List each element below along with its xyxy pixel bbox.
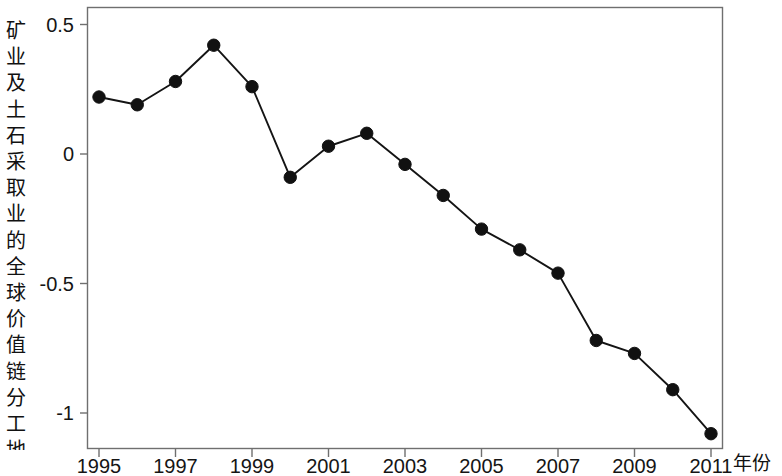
y-tick-label: -0.5 [40,273,74,295]
data-point-markers: 1995: 0.221996: 0.191997: 0.281998: 0.42… [93,39,717,440]
chart-figure: 矿业及土石采取业的全球价值链分工地位 年份 0.50-0.5-1 1995199… [0,0,782,476]
data-point-marker: 1995: 0.22 [93,91,105,103]
data-point-marker: 1998: 0.42 [208,39,220,51]
data-point-marker: 2008: -0.72 [590,334,602,346]
x-axis-ticks: 199519971999200120032005200720092011 [77,448,733,476]
x-tick-label: 2005 [459,455,504,476]
data-point-marker: 1996: 0.19 [131,99,143,111]
data-point-marker: 2000: -0.09 [284,171,296,183]
data-point-marker: 2006: -0.37 [514,244,526,256]
x-tick-label: 2011 [689,455,732,476]
line-chart-plot: 0.50-0.5-1 19951997199920012003200520072… [0,0,782,476]
data-point-marker: 2002: 0.08 [361,127,373,139]
data-point-marker: 2010: -0.91 [667,383,679,395]
x-tick-label: 2007 [536,455,581,476]
data-point-marker: 2011: -1.08 [705,428,717,440]
y-tick-label: -1 [56,402,74,424]
y-axis-ticks: 0.50-0.5-1 [40,14,88,425]
x-tick-label: 1995 [77,455,122,476]
y-tick-label: 0 [63,143,74,165]
data-point-marker: 2009: -0.77 [628,347,640,359]
x-tick-label: 2001 [306,455,351,476]
x-tick-label: 2009 [612,455,657,476]
x-tick-label: 1999 [230,455,275,476]
data-point-marker: 2005: -0.29 [475,223,487,235]
data-point-marker: 2007: -0.46 [552,267,564,279]
data-point-marker: 1999: 0.26 [246,80,258,92]
data-point-marker: 2001: 0.03 [322,140,334,152]
data-point-marker: 2003: -0.04 [399,158,411,170]
x-tick-label: 1997 [153,455,198,476]
data-point-marker: 2004: -0.16 [437,189,449,201]
x-tick-label: 2003 [383,455,428,476]
series-line [99,45,711,434]
data-point-marker: 1997: 0.28 [169,75,181,87]
y-tick-label: 0.5 [46,14,74,36]
